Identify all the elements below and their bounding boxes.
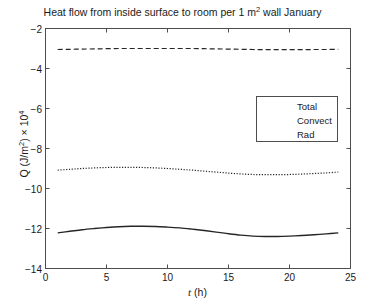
series-line-total [58,226,339,236]
chart-figure: Heat flow from inside surface to room pe… [0,0,365,307]
data-series-group [58,48,339,236]
legend-label-convect: Convect [297,114,332,128]
legend-label-rad: Rad [297,128,314,142]
legend-item-convect[interactable]: Convect [257,114,339,128]
legend[interactable]: Total Convect Rad [256,96,338,142]
axis-tick-marks [46,29,351,269]
legend-label-total: Total [297,100,317,114]
plot-frame [46,29,351,269]
legend-item-total[interactable]: Total [257,100,339,114]
legend-item-rad[interactable]: Rad [257,128,339,142]
series-line-convect [58,48,339,49]
axes-frame [46,29,351,269]
series-line-rad [58,167,339,174]
plot-area [0,0,365,307]
